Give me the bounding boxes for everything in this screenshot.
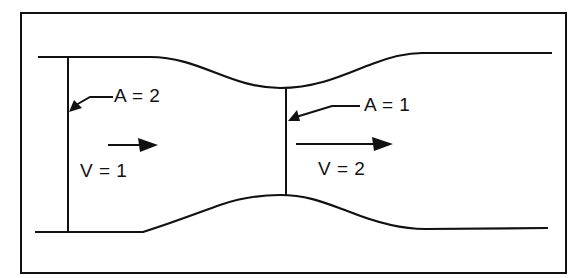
area-label-narrow: A = 1 bbox=[364, 94, 410, 116]
flow-arrow-v1 bbox=[108, 138, 158, 152]
flow-arrow-v2 bbox=[296, 137, 393, 151]
pointer-arrow-a2 bbox=[69, 97, 113, 112]
top-wall bbox=[38, 53, 552, 88]
velocity-label-wide: V = 1 bbox=[80, 160, 127, 182]
bottom-wall bbox=[35, 195, 548, 232]
area-label-wide: A = 2 bbox=[114, 85, 160, 107]
venturi-diagram bbox=[0, 0, 586, 278]
pointer-arrow-a1 bbox=[288, 106, 360, 121]
velocity-label-narrow: V = 2 bbox=[318, 158, 365, 180]
